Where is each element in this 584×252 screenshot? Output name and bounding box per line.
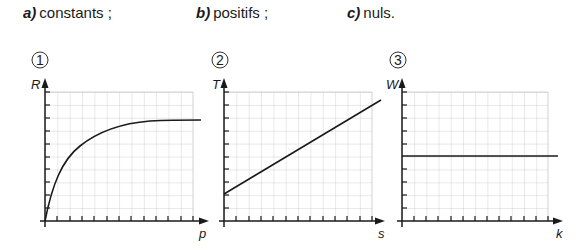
graph-1-x-arrow-icon bbox=[199, 218, 209, 225]
graph-2-y-label: T bbox=[212, 77, 221, 92]
graph-2-grid bbox=[224, 92, 372, 221]
graph-3: 3 W k bbox=[386, 52, 564, 241]
graph-1: 1 R p bbox=[31, 52, 209, 241]
graph-1-y-label: R bbox=[31, 77, 40, 92]
graphs-canvas: 1 R p 2 bbox=[0, 0, 584, 252]
graph-2-number: 2 bbox=[216, 52, 224, 68]
graph-2-y-arrow-icon bbox=[221, 78, 228, 88]
graph-1-grid bbox=[45, 92, 193, 221]
graph-3-x-arrow-icon bbox=[553, 218, 563, 225]
graph-3-y-arrow-icon bbox=[399, 78, 406, 88]
graph-1-y-arrow-icon bbox=[42, 78, 49, 88]
graph-1-number: 1 bbox=[36, 52, 44, 68]
graph-3-y-label: W bbox=[386, 77, 400, 92]
graph-3-number: 3 bbox=[394, 52, 402, 68]
graph-2-x-label: s bbox=[378, 226, 385, 241]
graph-1-x-label: p bbox=[198, 226, 206, 241]
graph-3-x-label: k bbox=[556, 226, 564, 241]
graph-2-x-arrow-icon bbox=[375, 218, 385, 225]
graph-2: 2 T s bbox=[212, 52, 385, 241]
